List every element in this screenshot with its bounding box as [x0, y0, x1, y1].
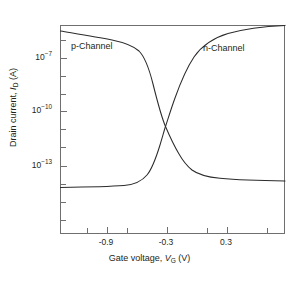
- y-tick-1e-14: [61, 184, 66, 185]
- y-tick-label-1e-7: 10−7: [35, 52, 52, 62]
- y-tick-1e-10: [61, 111, 67, 112]
- y-tick-exponent-2: −10: [41, 103, 52, 110]
- y-tick-exponent-3: −13: [41, 158, 52, 165]
- figure-container: 10−7 10−10 10−13 p-Channel n-Channel: [0, 0, 299, 285]
- plot-frame: [60, 25, 285, 234]
- y-tick-1e-15: [61, 202, 66, 203]
- x-tick-0.3: [227, 227, 228, 233]
- x-tick-minus0.6: [127, 228, 128, 233]
- y-tick-1e-8: [61, 76, 66, 77]
- y-tick-label-1e-13: 10−13: [32, 160, 52, 170]
- x-axis-tick-labels: -0.9 -0.3 0.3: [0, 237, 299, 251]
- x-tick-minus0.3: [167, 227, 168, 233]
- x-axis-title: Gate voltage, VG (V): [0, 253, 299, 263]
- x-axis-title-subscript: G: [171, 257, 176, 264]
- y-tick-1e-6: [61, 40, 66, 41]
- x-tick-label-0.3: 0.3: [220, 237, 232, 247]
- annotation-p-channel: p-Channel: [71, 41, 113, 51]
- y-axis-title-symbol: I: [8, 87, 18, 90]
- y-tick-1e-7: [61, 58, 67, 59]
- y-axis-title: Drain current, ID (A): [8, 0, 28, 250]
- annotation-n-channel: n-Channel: [203, 43, 245, 53]
- x-axis-title-units: (V): [176, 253, 191, 263]
- x-axis-title-prefix: Gate voltage,: [109, 253, 165, 263]
- y-tick-exponent-1: −7: [45, 50, 52, 57]
- y-tick-1e-16: [61, 220, 66, 221]
- y-tick-1e-9: [61, 94, 66, 95]
- x-tick-label-minus0.9: -0.9: [99, 237, 114, 247]
- x-axis-title-symbol: V: [165, 253, 171, 263]
- x-tick-0.0: [207, 228, 208, 233]
- x-tick-minus1.2: [87, 228, 88, 233]
- x-tick-minus0.9: [107, 227, 108, 233]
- y-tick-1e-13: [61, 166, 67, 167]
- y-tick-1e-12: [61, 147, 66, 148]
- y-axis-title-subscript: D: [12, 83, 19, 88]
- y-tick-label-1e-10: 10−10: [32, 105, 52, 115]
- x-tick-0.6: [267, 228, 268, 233]
- y-tick-1e-11: [61, 129, 66, 130]
- y-axis-title-units: (A): [8, 68, 18, 83]
- y-axis-title-prefix: Drain current,: [8, 90, 18, 147]
- x-tick-label-minus0.3: -0.3: [159, 237, 174, 247]
